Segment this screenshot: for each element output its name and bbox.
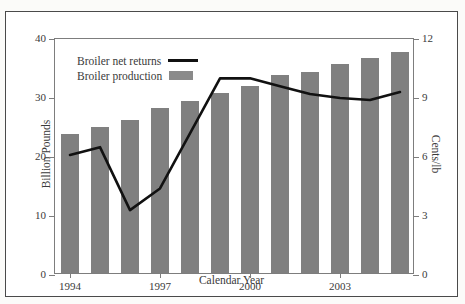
- cut-off-caption-strip: [0, 0, 465, 9]
- y-axis-left-tick: [49, 98, 55, 99]
- y-axis-right-tick: [413, 275, 419, 276]
- x-axis-tick-label: 2000: [239, 280, 261, 292]
- y-axis-right-tick-label: 0: [422, 269, 428, 280]
- y-axis-left-tick-label: 0: [41, 269, 47, 280]
- chart-legend: Broiler net returns Broiler production: [77, 53, 198, 83]
- y-axis-left-tick: [49, 275, 55, 276]
- y-axis-left-tick: [49, 39, 55, 40]
- legend-bar-swatch-icon: [169, 71, 193, 80]
- y-axis-right-tick-label: 6: [422, 151, 428, 162]
- x-axis-tick-label: 1997: [149, 280, 171, 292]
- legend-item-production: Broiler production: [77, 68, 198, 83]
- x-axis-tick: [70, 273, 71, 278]
- x-axis-tick: [160, 273, 161, 278]
- chart-page: Billion Pounds Cents/lb Calendar Year 01…: [0, 0, 465, 304]
- y-axis-left-tick: [49, 157, 55, 158]
- y-axis-left-tick: [49, 216, 55, 217]
- x-axis-tick-label: 2003: [329, 280, 351, 292]
- y-axis-right-tick: [413, 39, 419, 40]
- legend-label-production: Broiler production: [77, 70, 162, 82]
- legend-item-net-returns: Broiler net returns: [77, 53, 198, 68]
- legend-line-swatch-icon: [168, 59, 198, 62]
- x-axis-tick: [250, 273, 251, 278]
- y-axis-right-tick: [413, 98, 419, 99]
- y-axis-right-tick: [413, 157, 419, 158]
- plot-area: 010203040 036912 1994199720002003 Broile…: [54, 38, 414, 274]
- y-axis-left-tick-label: 20: [35, 151, 46, 162]
- y-axis-left-tick-label: 10: [35, 210, 46, 221]
- y-axis-right-tick-label: 12: [422, 33, 433, 44]
- chart-frame: Billion Pounds Cents/lb Calendar Year 01…: [5, 11, 458, 297]
- y-axis-right-title: Cents/lb: [430, 135, 442, 173]
- x-axis-tick: [340, 273, 341, 278]
- x-axis-tick-label: 1994: [59, 280, 81, 292]
- y-axis-right-tick: [413, 216, 419, 217]
- y-axis-right-tick-label: 3: [422, 210, 428, 221]
- net-returns-polyline: [70, 78, 400, 210]
- y-axis-left-tick-label: 40: [35, 33, 46, 44]
- legend-label-net-returns: Broiler net returns: [77, 55, 161, 67]
- y-axis-right-tick-label: 9: [422, 92, 428, 103]
- y-axis-left-tick-label: 30: [35, 92, 46, 103]
